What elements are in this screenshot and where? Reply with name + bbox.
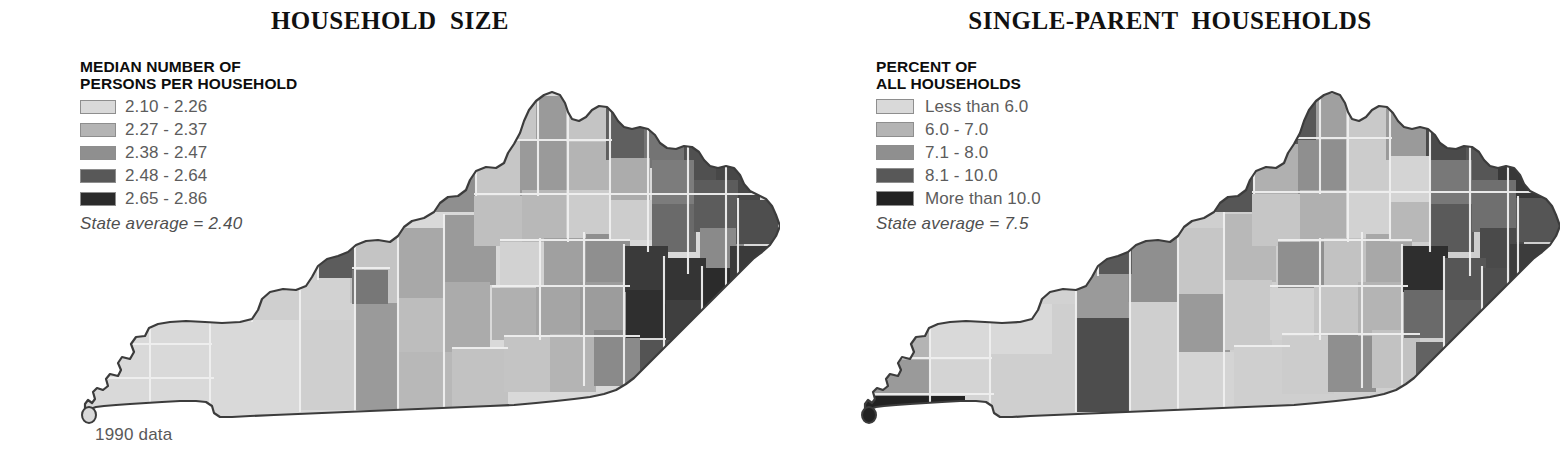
legend-label: 2.27 - 2.37 bbox=[125, 121, 207, 138]
panel-single-parent-households: SINGLE-PARENT HOUSEHOLDS bbox=[780, 0, 1560, 453]
legend-rows: Less than 6.0 6.0 - 7.0 7.1 - 8.0 8.1 - … bbox=[876, 95, 1176, 210]
map-legend: PERCENT OF ALL HOUSEHOLDS Less than 6.0 … bbox=[876, 58, 1176, 234]
legend-swatch bbox=[876, 122, 914, 137]
legend-row[interactable]: More than 10.0 bbox=[876, 187, 1176, 210]
legend-swatch bbox=[80, 146, 116, 160]
legend-row[interactable]: 2.65 - 2.86 bbox=[80, 187, 380, 210]
map-legend: MEDIAN NUMBER OF PERSONS PER HOUSEHOLD 2… bbox=[80, 58, 380, 234]
legend-label: 2.48 - 2.64 bbox=[125, 167, 207, 184]
legend-row[interactable]: 7.1 - 8.0 bbox=[876, 141, 1176, 164]
legend-swatch bbox=[876, 191, 914, 206]
panel-household-size: HOUSEHOLD SIZE bbox=[0, 0, 780, 453]
kentucky-bend bbox=[82, 407, 96, 423]
data-year-footnote: 1990 data bbox=[95, 425, 172, 445]
legend-label: Less than 6.0 bbox=[925, 98, 1028, 115]
state-average-note: State average = 2.40 bbox=[80, 214, 380, 234]
state-average-note: State average = 7.5 bbox=[876, 214, 1176, 234]
legend-label: 2.10 - 2.26 bbox=[125, 98, 207, 115]
legend-label: 6.0 - 7.0 bbox=[925, 121, 988, 138]
legend-row[interactable]: 6.0 - 7.0 bbox=[876, 118, 1176, 141]
kentucky-bend bbox=[862, 407, 876, 423]
figure-root: HOUSEHOLD SIZE bbox=[0, 0, 1560, 453]
legend-label: 2.38 - 2.47 bbox=[125, 144, 207, 161]
legend-swatch bbox=[876, 99, 914, 114]
legend-row[interactable]: Less than 6.0 bbox=[876, 95, 1176, 118]
legend-swatch bbox=[80, 192, 116, 206]
legend-swatch bbox=[80, 100, 116, 114]
legend-rows: 2.10 - 2.26 2.27 - 2.37 2.38 - 2.47 2.48… bbox=[80, 95, 380, 210]
legend-swatch bbox=[876, 145, 914, 160]
legend-swatch bbox=[80, 123, 116, 137]
legend-row[interactable]: 2.48 - 2.64 bbox=[80, 164, 380, 187]
legend-title: MEDIAN NUMBER OF PERSONS PER HOUSEHOLD bbox=[80, 58, 380, 92]
legend-swatch bbox=[876, 168, 914, 183]
legend-row[interactable]: 8.1 - 10.0 bbox=[876, 164, 1176, 187]
legend-label: 2.65 - 2.86 bbox=[125, 190, 207, 207]
legend-label: 8.1 - 10.0 bbox=[925, 167, 998, 184]
legend-label: 7.1 - 8.0 bbox=[925, 144, 988, 161]
legend-row[interactable]: 2.10 - 2.26 bbox=[80, 95, 380, 118]
legend-swatch bbox=[80, 169, 116, 183]
legend-label: More than 10.0 bbox=[925, 190, 1041, 207]
legend-row[interactable]: 2.38 - 2.47 bbox=[80, 141, 380, 164]
legend-title: PERCENT OF ALL HOUSEHOLDS bbox=[876, 58, 1176, 92]
legend-row[interactable]: 2.27 - 2.37 bbox=[80, 118, 380, 141]
